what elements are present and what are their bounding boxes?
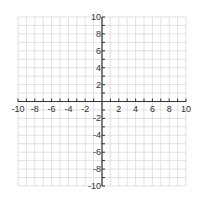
y-tick-label: -6 [93, 148, 101, 157]
x-tick-label: 4 [133, 105, 138, 114]
x-tick-label: -6 [48, 105, 56, 114]
y-tick-label: 10 [91, 13, 101, 22]
y-tick-label: -4 [93, 131, 101, 140]
y-tick-label: -2 [93, 114, 101, 123]
y-tick-label: -10 [88, 182, 101, 191]
x-tick-label: 10 [181, 105, 191, 114]
x-tick-label: 6 [150, 105, 155, 114]
y-tick-label: 6 [96, 46, 101, 55]
y-tick-label: -8 [93, 165, 101, 174]
x-tick-label: -10 [11, 105, 24, 114]
x-tick-label: 8 [167, 105, 172, 114]
y-tick-label: 2 [96, 80, 101, 89]
x-tick-label: -2 [81, 105, 89, 114]
y-tick-label: 4 [96, 63, 101, 72]
x-tick-label: -8 [31, 105, 39, 114]
x-tick-label: -4 [64, 105, 72, 114]
x-tick-label: 2 [116, 105, 121, 114]
y-tick-label: 8 [96, 29, 101, 38]
